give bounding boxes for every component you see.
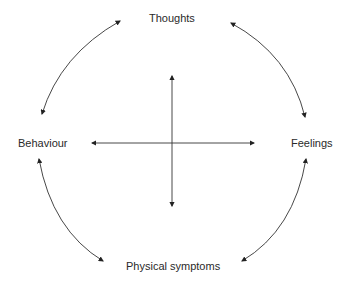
- arrow-behaviour-physical: [39, 159, 103, 261]
- node-behaviour: Behaviour: [18, 137, 68, 149]
- arrow-feelings-physical: [242, 159, 306, 261]
- node-physical-symptoms: Physical symptoms: [126, 260, 220, 272]
- arrow-thoughts-feelings: [231, 23, 305, 117]
- arrow-thoughts-behaviour: [42, 21, 120, 114]
- node-feelings: Feelings: [291, 137, 333, 149]
- node-thoughts: Thoughts: [149, 12, 195, 24]
